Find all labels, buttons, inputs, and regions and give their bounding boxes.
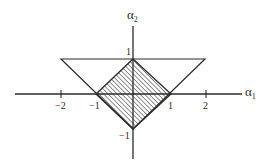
hatched-diamond-region [90, 55, 180, 135]
y-axis-label-subscript: 2 [134, 15, 138, 24]
y-axis-label: α2 [127, 8, 138, 24]
y-tick-label-1: 1 [126, 47, 131, 57]
x-axis-label: α1 [245, 85, 256, 101]
x-tick-label-1: 1 [168, 101, 173, 111]
x-axis-label-symbol: α [245, 84, 252, 99]
y-tick-label-minus-1: −1 [119, 131, 130, 141]
y-axis-label-symbol: α [127, 7, 134, 22]
x-axis-label-subscript: 1 [252, 92, 256, 101]
x-tick-label-2: 2 [203, 101, 208, 111]
region-diagram [0, 0, 267, 167]
x-tick-label-minus-1: −1 [89, 101, 100, 111]
x-tick-label-minus-2: −2 [55, 101, 66, 111]
